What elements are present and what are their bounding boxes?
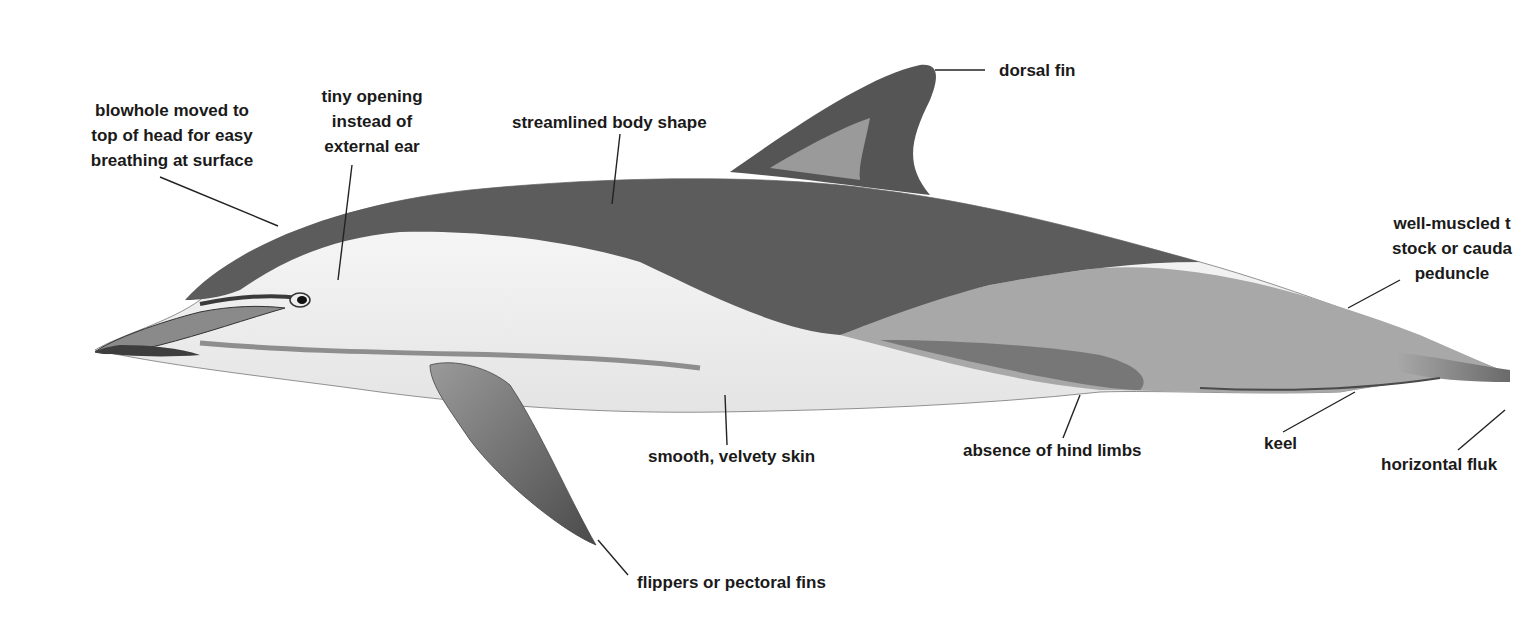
label-blowhole: blowhole moved to top of head for easy b… <box>82 98 262 173</box>
label-line: absence of hind limbs <box>963 438 1142 463</box>
label-keel: keel <box>1264 431 1297 456</box>
label-hind-limbs: absence of hind limbs <box>963 438 1142 463</box>
label-line: dorsal fin <box>999 58 1076 83</box>
label-streamlined-body: streamlined body shape <box>512 110 707 135</box>
label-line: breathing at surface <box>82 148 262 173</box>
label-horizontal-flukes: horizontal fluk <box>1381 452 1497 477</box>
label-dorsal-fin: dorsal fin <box>999 58 1076 83</box>
label-line: peduncle <box>1372 261 1517 286</box>
label-line: flippers or pectoral fins <box>637 570 826 595</box>
label-line: smooth, velvety skin <box>648 444 815 469</box>
label-line: keel <box>1264 431 1297 456</box>
label-line: tiny opening <box>306 84 438 109</box>
label-flippers: flippers or pectoral fins <box>637 570 826 595</box>
label-line: well-muscled t <box>1372 211 1517 236</box>
label-line: streamlined body shape <box>512 110 707 135</box>
label-line: top of head for easy <box>82 123 262 148</box>
label-skin: smooth, velvety skin <box>648 444 815 469</box>
label-line: horizontal fluk <box>1381 452 1497 477</box>
label-line: blowhole moved to <box>82 98 262 123</box>
label-line: external ear <box>306 134 438 159</box>
label-ear-opening: tiny opening instead of external ear <box>306 84 438 159</box>
label-tail-stock: well-muscled t stock or cauda peduncle <box>1372 211 1517 286</box>
label-line: stock or cauda <box>1372 236 1517 261</box>
label-line: instead of <box>306 109 438 134</box>
